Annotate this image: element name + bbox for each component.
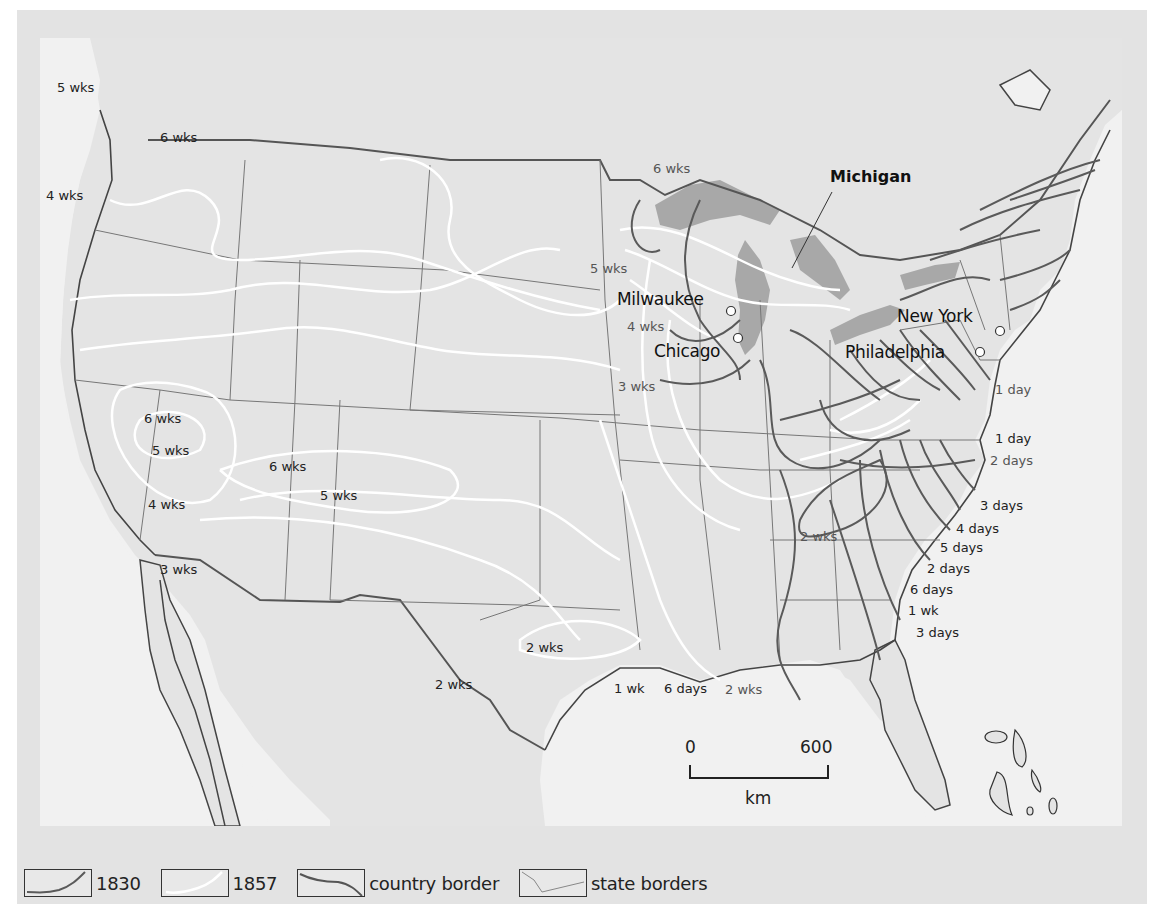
label-nw-5wks: 5 wks [57,81,94,94]
scale-unit-label: km [745,790,771,807]
legend-item-state-borders: state borders [519,869,707,897]
label-ca-6wks: 6 wks [144,412,181,425]
legend-label-country-border: country border [369,873,499,894]
label-ga-6days: 6 days [910,583,953,596]
legend: 1830 1857 country border state borders [24,868,727,898]
city-label-milwaukee: Milwaukee [617,291,704,308]
legend-item-1830: 1830 [24,869,141,897]
label-ga-1wk: 1 wk [908,604,939,617]
label-fl-3days: 3 days [916,626,959,639]
legend-swatch-1857 [161,869,229,897]
city-marker-chicago [734,334,743,343]
label-nw-4wks: 4 wks [46,189,83,202]
legend-label-1857: 1857 [233,873,278,894]
legend-item-country-border: country border [297,869,499,897]
label-rg-2wks: 2 wks [435,678,472,691]
city-label-chicago: Chicago [654,343,720,360]
label-mn-5wks: 5 wks [590,262,627,275]
label-mn-6wks: 6 wks [653,162,690,175]
legend-swatch-state-borders [519,869,587,897]
label-nj-1day: 1 day [995,383,1031,396]
region-label-michigan: Michigan [830,169,911,185]
city-marker-philadelphia [976,348,985,357]
label-wi-4wks: 4 wks [627,320,664,333]
map-graphic [40,38,1122,826]
legend-swatch-country-border [297,869,365,897]
label-ca-4wks: 4 wks [148,498,185,511]
city-label-new-york: New York [897,308,972,325]
city-label-philadelphia: Philadelphia [845,344,945,361]
label-ga-2days: 2 days [927,562,970,575]
label-va-1day: 1 day [995,432,1031,445]
label-gulf-1wk: 1 wk [614,682,645,695]
map-area: 5 wks 6 wks 4 wks 6 wks 5 wks 4 wks 3 wk… [40,38,1122,826]
city-marker-new-york [996,327,1005,336]
label-nc-3days: 3 days [980,499,1023,512]
label-ca-3wks: 3 wks [160,563,197,576]
label-nw-6wks: 6 wks [160,131,197,144]
label-tx-2wks: 2 wks [526,641,563,654]
legend-label-1830: 1830 [96,873,141,894]
label-ia-3wks: 3 wks [618,380,655,393]
label-ut-6wks: 6 wks [269,460,306,473]
label-tn-2wks: 2 wks [800,530,837,543]
scale-start-label: 0 [685,739,696,756]
scale-end-label: 600 [800,739,832,756]
legend-swatch-1830 [24,869,92,897]
label-nc-2days: 2 days [990,454,1033,467]
legend-item-1857: 1857 [161,869,278,897]
city-marker-milwaukee [727,307,736,316]
label-ca-5wks: 5 wks [152,444,189,457]
label-sc-4days: 4 days [956,522,999,535]
label-sc-5days: 5 days [940,541,983,554]
label-gulf-2wks: 2 wks [725,683,762,696]
label-gulf-6days: 6 days [664,682,707,695]
label-co-5wks: 5 wks [320,489,357,502]
legend-label-state-borders: state borders [591,873,707,894]
